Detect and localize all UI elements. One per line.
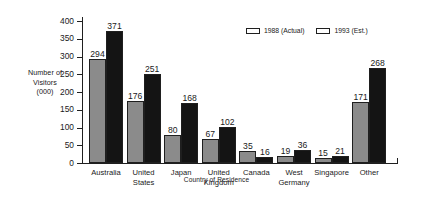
x-axis-line [82,163,398,164]
bar-group: 1936 [277,21,311,163]
bar-group: 80168 [164,21,198,163]
bar-groups: 2943711762518016867102351619361521171268 [82,21,398,163]
y-tick-label: 0 [69,158,74,169]
bar[interactable]: 371 [106,31,123,163]
y-tick-label: 50 [65,140,74,151]
bar[interactable]: 35 [239,151,256,163]
bar-group: 294371 [89,21,123,163]
x-axis-title: Country of Residence [0,176,433,183]
bar[interactable]: 80 [164,135,181,163]
y-tick-mark [77,163,83,164]
y-tick-label: 300 [60,51,74,62]
y-tick-label: 200 [60,87,74,98]
bar[interactable]: 16 [256,157,273,163]
bar[interactable]: 294 [89,59,106,163]
bar-value-label: 35 [243,141,253,151]
bar-group: 176251 [127,21,161,163]
bar-value-label: 102 [220,117,234,127]
bar-chart: Number of Visitors (000) 1988 (Actual) 1… [0,0,433,200]
bar[interactable]: 176 [127,101,144,163]
bar-group: 1521 [315,21,349,163]
bar-value-label: 294 [90,49,104,59]
bar[interactable]: 15 [315,158,332,163]
bar[interactable]: 268 [369,68,386,163]
bar-value-label: 168 [183,93,197,103]
bar-value-label: 251 [145,64,159,74]
bar-group: 171268 [352,21,386,163]
bar-value-label: 268 [371,58,385,68]
y-tick-label: 250 [60,69,74,80]
bar[interactable]: 67 [202,139,219,163]
plot-area: 050100150200250300350400 294371176251801… [82,21,398,163]
bar-value-label: 16 [260,147,270,157]
bar-value-label: 15 [318,148,328,158]
y-tick-label: 400 [60,16,74,27]
bar-value-label: 19 [281,146,291,156]
bar-value-label: 176 [128,91,142,101]
bar-value-label: 67 [206,129,216,139]
bar[interactable]: 36 [294,150,311,163]
bar[interactable]: 21 [332,156,349,163]
bar-value-label: 371 [107,21,121,31]
bar[interactable]: 251 [144,74,161,163]
bar[interactable]: 168 [181,103,198,163]
bar-group: 3516 [239,21,273,163]
y-tick-label: 150 [60,104,74,115]
bar[interactable]: 102 [219,127,236,163]
bar-group: 67102 [202,21,236,163]
y-tick-label: 350 [60,33,74,44]
bar[interactable]: 171 [352,102,369,163]
bar-value-label: 171 [354,92,368,102]
y-tick-label: 100 [60,122,74,133]
bar[interactable]: 19 [277,156,294,163]
bar-value-label: 21 [335,146,345,156]
bar-value-label: 80 [168,125,178,135]
bar-value-label: 36 [298,140,308,150]
